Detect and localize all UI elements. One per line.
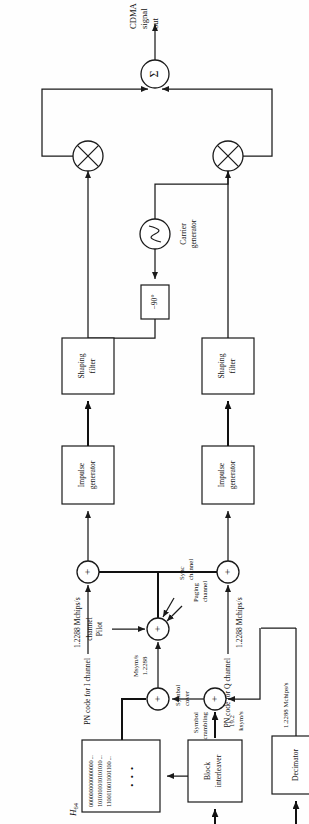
i-shaping-filter-line1: Shaping <box>77 353 86 378</box>
phase-shifter-label: −90° <box>150 295 159 310</box>
walsh-to-symbol-cover-wire <box>122 699 146 740</box>
symbol-cover-line1: Symbol <box>174 685 181 706</box>
sync-channel-line1: Sync <box>178 566 185 580</box>
sync-channel-wire <box>163 598 174 617</box>
interleaver-line2: interleaver <box>214 754 223 787</box>
decimator-label: Decimator <box>291 749 300 782</box>
pilot-channel-line1: Pilot <box>95 621 104 636</box>
q-impulse-gen-line2: generator <box>228 460 237 489</box>
summer-symbol: Σ <box>147 70 161 77</box>
i-shaping-filter-line2: filter <box>88 358 97 373</box>
walsh-row-2: 1100110011001100 ... <box>105 756 112 807</box>
interleaver-line1: Block <box>203 762 212 780</box>
symbol-cover-symbol: + <box>151 696 163 702</box>
paging-channel-line2: channel <box>201 581 208 602</box>
output-label-line1: CDMA <box>128 2 138 29</box>
paging-channel-line1: Paging <box>192 583 199 602</box>
symbol-scrambling-symbol: + <box>208 696 220 702</box>
output-label-line3: out <box>150 17 160 29</box>
q-impulse-gen-line1: Impulse <box>217 462 226 487</box>
paging-channel-wire <box>167 606 182 621</box>
carrier-label-line2: generator <box>189 219 198 248</box>
symbol-scrambling-line2: scrambling <box>201 711 208 742</box>
i-impulse-gen-line1: Impulse <box>77 462 86 487</box>
walsh-ellipsis: • • • <box>127 765 137 786</box>
i-rate-label: 1.2288 Mchips/s <box>73 597 82 648</box>
carrier-to-q-mixer-wire <box>155 171 228 219</box>
walsh-row-0: 0000000000000000 ... <box>87 755 94 807</box>
symbol-scrambling-line1: Symbol <box>192 712 199 733</box>
q-shaping-filter-line1: Shaping <box>217 353 226 378</box>
combiner-rate-line2: Msym/s <box>132 655 139 677</box>
i-pn-code-label: PN code for I channel <box>83 658 92 725</box>
channel-combiner-symbol: + <box>151 626 163 632</box>
rotated-diagram-wrapper: Σ CDMA signal out Carrier generator <box>0 0 309 824</box>
scrambling-rate-line2: ksym/s <box>237 711 244 731</box>
symbol-cover-line2: cover <box>183 690 190 706</box>
combiner-rate-line1: 1.2288 <box>141 656 148 675</box>
output-label-line2: signal <box>139 8 149 29</box>
sync-channel-line2: channel <box>187 559 194 580</box>
walsh-row-1: 1010101010101010 ... <box>96 755 103 807</box>
q-rate-label: 1.2288 Mchips/s <box>235 597 244 648</box>
decimator-to-scrambling-wire <box>228 628 260 699</box>
i-impulse-gen-line2: generator <box>88 460 97 489</box>
q-shaping-filter-line2: filter <box>228 358 237 373</box>
i-adder-symbol: + <box>81 569 93 575</box>
pilot-channel-line2: channel <box>85 617 94 641</box>
cdma-transmitter-diagram: Σ CDMA signal out Carrier generator <box>0 0 309 824</box>
carrier-label-line1: Carrier <box>179 223 188 245</box>
scrambling-rate-line1: 19.2 <box>228 714 235 726</box>
q-adder-symbol: + <box>221 569 233 575</box>
figure-page: Σ CDMA signal out Carrier generator <box>0 0 309 824</box>
long-code-rate-label: 1.2288 Mchips/s <box>282 682 289 728</box>
walsh-matrix-label: H64 <box>68 802 79 817</box>
